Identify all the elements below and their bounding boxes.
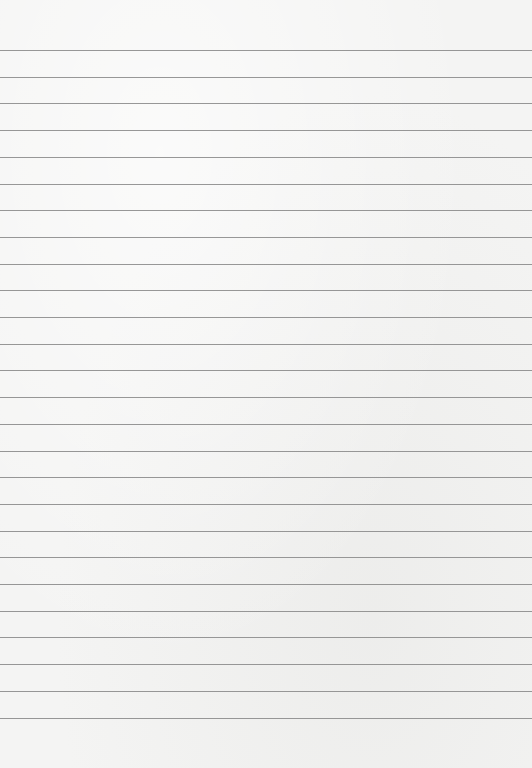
ruled-line (0, 264, 532, 265)
ruled-line (0, 77, 532, 78)
ruled-line (0, 664, 532, 665)
ruled-line (0, 477, 532, 478)
ruled-line (0, 504, 532, 505)
ruled-line (0, 424, 532, 425)
ruled-line (0, 237, 532, 238)
ruled-line (0, 637, 532, 638)
lined-paper (0, 0, 532, 768)
ruled-line (0, 103, 532, 104)
ruled-line (0, 611, 532, 612)
ruled-line (0, 157, 532, 158)
ruled-line (0, 344, 532, 345)
ruled-line (0, 370, 532, 371)
ruled-line (0, 50, 532, 51)
ruled-line (0, 210, 532, 211)
ruled-line (0, 718, 532, 719)
ruled-line (0, 290, 532, 291)
ruled-line (0, 317, 532, 318)
ruled-line (0, 397, 532, 398)
ruled-line (0, 451, 532, 452)
ruled-line (0, 557, 532, 558)
ruled-line (0, 531, 532, 532)
ruled-line (0, 130, 532, 131)
ruled-line (0, 584, 532, 585)
ruled-line (0, 184, 532, 185)
ruled-line (0, 691, 532, 692)
